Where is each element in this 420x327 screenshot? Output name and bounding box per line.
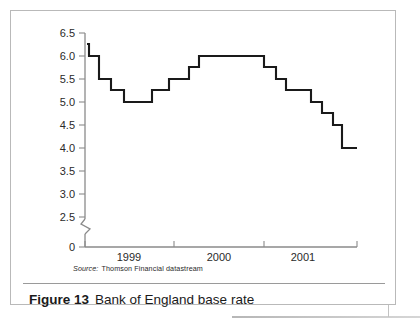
source-text: Thomson Financial datastream bbox=[98, 264, 202, 273]
y-label-6-5: 6.5 bbox=[60, 27, 75, 39]
y-label-2-5: 2.5 bbox=[60, 211, 75, 223]
y-axis-break-zigzag bbox=[81, 219, 90, 234]
y-label-3-5: 3.5 bbox=[60, 165, 75, 177]
scan-artifact-edge bbox=[388, 305, 389, 317]
x-label-2001: 2001 bbox=[291, 251, 315, 261]
figure-container: 6.5 6.0 5.5 5.0 4.5 4.0 3.5 3.0 2.5 0 19… bbox=[10, 10, 396, 305]
base-rate-step-chart: 6.5 6.0 5.5 5.0 4.5 4.0 3.5 3.0 2.5 0 19… bbox=[11, 11, 397, 261]
y-label-6-0: 6.0 bbox=[60, 50, 75, 62]
figure-caption: Figure 13Bank of England base rate bbox=[29, 292, 254, 307]
source-label: Source: bbox=[73, 264, 98, 273]
y-axis-group: 6.5 6.0 5.5 5.0 4.5 4.0 3.5 3.0 2.5 0 bbox=[60, 27, 90, 254]
y-label-5-5: 5.5 bbox=[60, 73, 75, 85]
y-label-3-0: 3.0 bbox=[60, 188, 75, 200]
y-label-4-5: 4.5 bbox=[60, 119, 75, 131]
step-line-path bbox=[87, 44, 357, 148]
caption-number: Figure 13 bbox=[29, 292, 89, 307]
chart-plot-area: 6.5 6.0 5.5 5.0 4.5 4.0 3.5 3.0 2.5 0 19… bbox=[11, 11, 397, 261]
y-label-4-0: 4.0 bbox=[60, 142, 75, 154]
caption-title: Bank of England base rate bbox=[89, 292, 254, 307]
x-label-1999: 1999 bbox=[117, 251, 141, 261]
caption-divider bbox=[23, 283, 385, 284]
data-series-base-rate bbox=[87, 44, 357, 148]
x-label-2000: 2000 bbox=[207, 251, 231, 261]
x-axis-group: 1999 2000 2001 bbox=[85, 241, 357, 261]
scan-artifact-line bbox=[232, 316, 420, 318]
y-label-0: 0 bbox=[69, 241, 75, 253]
source-note: Source:Thomson Financial datastream bbox=[73, 264, 203, 273]
y-label-5-0: 5.0 bbox=[60, 96, 75, 108]
